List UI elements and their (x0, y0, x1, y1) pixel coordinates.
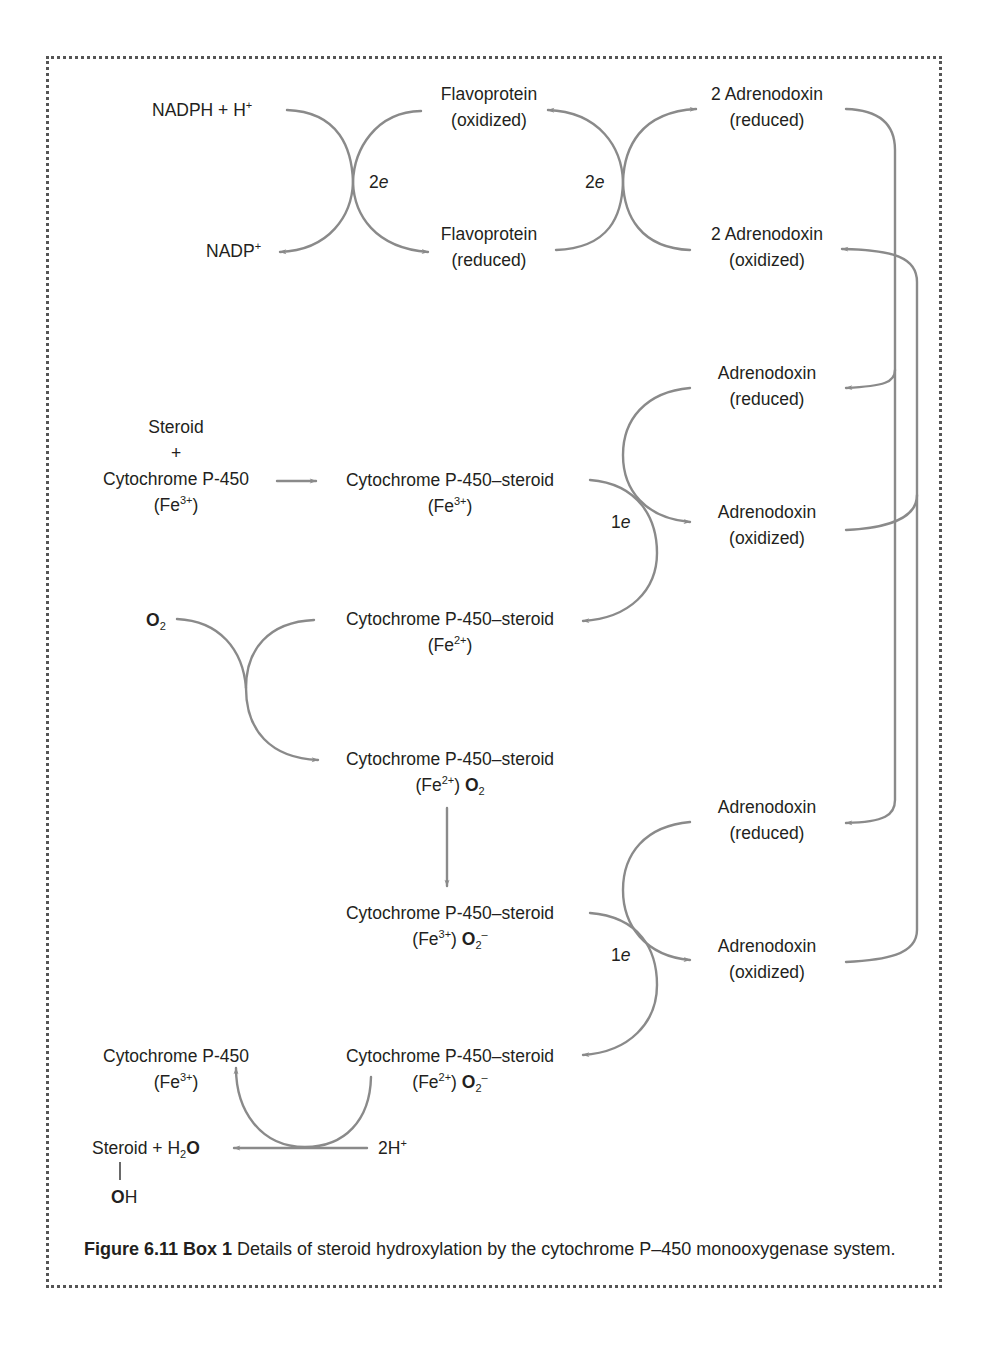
label-2-protons: 2H+ (378, 1135, 407, 1161)
arrow-nadph-to-nadp (280, 110, 353, 252)
label-flavoprotein-reduced: Flavoprotein(reduced) (441, 221, 537, 273)
label-hydroxyl-group: OH (111, 1184, 137, 1210)
arrow-adx-red-to-adx-ox-2 (623, 822, 690, 960)
label-hydroxylated-steroid-water: Steroid + H2O (92, 1135, 200, 1161)
label-flavoprotein-oxidized: Flavoprotein(oxidized) (441, 81, 537, 133)
arrow-o2-in (177, 619, 246, 688)
label-adrenodoxin-reduced-2: Adrenodoxin(reduced) (718, 794, 816, 846)
arrow-complex3o2-to-complex2o2 (583, 913, 657, 1055)
label-2e-left: 2e (369, 172, 388, 192)
label-1e-lower: 1e (611, 945, 630, 965)
label-2-adrenodoxin-reduced: 2 Adrenodoxin(reduced) (711, 81, 823, 133)
label-complex-fe2-o2: Cytochrome P-450–steroid (Fe2+) O2 (346, 746, 554, 798)
arrow-adx-red-to-adx-ox-1 (623, 388, 690, 522)
caption-text: Details of steroid hydroxylation by the … (232, 1239, 895, 1259)
rail-adx2-red-down-lower (846, 370, 895, 823)
caption-label: Figure 6.11 Box 1 (84, 1239, 232, 1259)
figure-caption: Figure 6.11 Box 1 Details of steroid hyd… (84, 1237, 904, 1262)
label-adrenodoxin-oxidized-2: Adrenodoxin(oxidized) (718, 933, 816, 985)
label-nadp: NADP+ (206, 238, 261, 264)
arrow-flavo-ox-to-flavo-red (353, 111, 428, 252)
label-1e-upper: 1e (611, 512, 630, 532)
rail-adx-ox-up (842, 249, 917, 530)
label-adrenodoxin-oxidized-1: Adrenodoxin(oxidized) (718, 499, 816, 551)
label-nadph: NADPH + H+ (152, 97, 252, 123)
label-2-adrenodoxin-oxidized: 2 Adrenodoxin(oxidized) (711, 221, 823, 273)
label-o2: O2 (146, 607, 166, 633)
label-steroid-plus-cyp450: Steroid + Cytochrome P-450 (Fe3+) (103, 414, 249, 518)
label-cyp450-fe3-regenerated: Cytochrome P-450 (Fe3+) (103, 1043, 249, 1095)
label-complex-fe3: Cytochrome P-450–steroid (Fe3+) (346, 467, 554, 519)
arrow-complex2-to-complex2o2 (246, 620, 318, 760)
label-complex-fe2: Cytochrome P-450–steroid (Fe2+) (346, 606, 554, 658)
arrow-complex3-to-complex2 (583, 480, 657, 621)
label-2e-right: 2e (585, 172, 604, 192)
label-adrenodoxin-reduced-1: Adrenodoxin(reduced) (718, 360, 816, 412)
label-complex-fe2-superoxide: Cytochrome P-450–steroid (Fe2+) O2– (346, 1043, 554, 1095)
rail-adx-ox-up-lower (846, 495, 917, 962)
label-complex-fe3-superoxide: Cytochrome P-450–steroid (Fe3+) O2– (346, 900, 554, 952)
arrow-adx-ox-to-adx-red (623, 109, 696, 250)
